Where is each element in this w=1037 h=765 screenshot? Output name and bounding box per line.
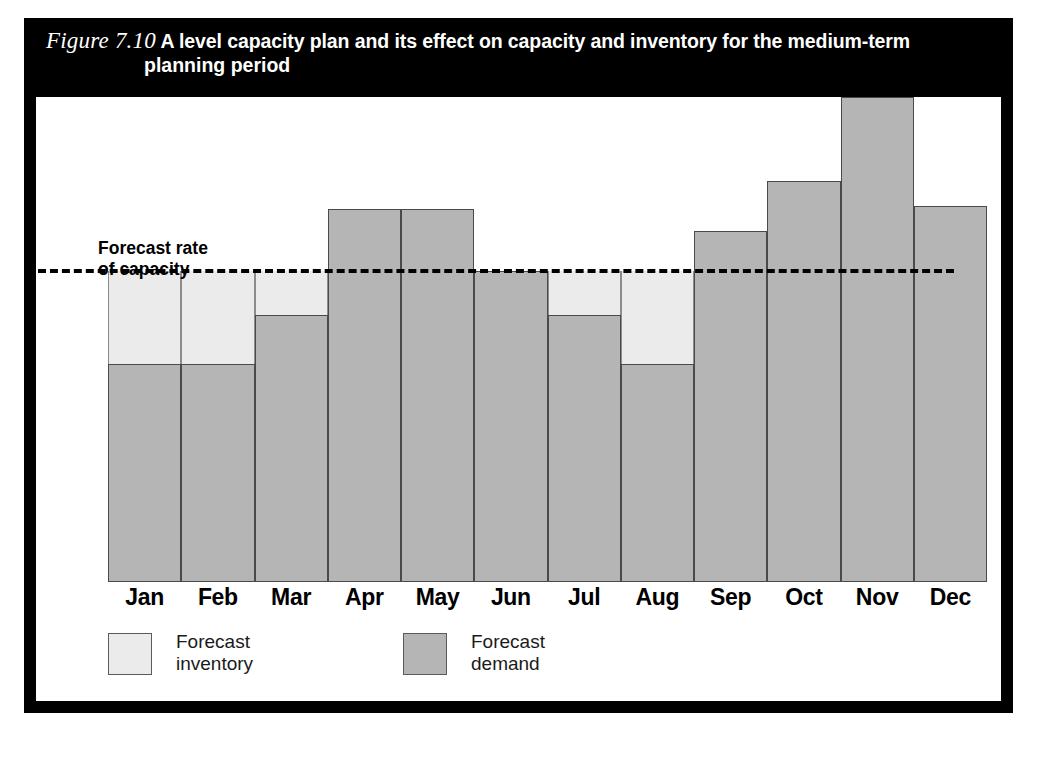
bar-column	[474, 97, 547, 582]
bar-column	[767, 97, 840, 582]
demand-bar-apr	[328, 209, 401, 582]
legend-swatch-dark	[403, 633, 447, 675]
chart-panel: Forecast rate of capacity JanFebMarAprMa…	[36, 97, 1001, 701]
month-label-aug: Aug	[621, 584, 694, 611]
month-label-may: May	[401, 584, 474, 611]
legend-label-line2: inventory	[176, 653, 253, 675]
bar-column	[914, 97, 987, 582]
bar-column	[181, 97, 254, 582]
inventory-band-jan	[108, 271, 181, 364]
demand-bar-dec	[914, 206, 987, 582]
demand-bar-aug	[621, 364, 694, 582]
bar-column	[548, 97, 621, 582]
legend-swatch-light	[108, 633, 152, 675]
legend-label-line2: demand	[471, 653, 545, 675]
chart-legend: ForecastinventoryForecastdemand	[108, 631, 987, 693]
month-label-nov: Nov	[841, 584, 914, 611]
figure-title-bar: Figure 7.10 A level capacity plan and it…	[24, 18, 1013, 89]
demand-bar-feb	[181, 364, 254, 582]
month-label-sep: Sep	[694, 584, 767, 611]
demand-bar-jun	[474, 271, 547, 582]
demand-bar-jan	[108, 364, 181, 582]
demand-bar-oct	[767, 181, 840, 582]
demand-bar-sep	[694, 231, 767, 582]
figure-title-line2-wrap: planning period	[144, 54, 994, 77]
bar-column	[841, 97, 914, 582]
legend-item-forecast-inventory: Forecastinventory	[108, 631, 253, 675]
month-label-jun: Jun	[474, 584, 547, 611]
capacity-line-label: Forecast rate of capacity	[98, 238, 208, 280]
bars-container	[108, 97, 987, 582]
figure-title-line2: planning period	[144, 54, 290, 76]
month-label-jul: Jul	[548, 584, 621, 611]
demand-bar-jul	[548, 315, 621, 582]
bar-column	[328, 97, 401, 582]
x-axis-month-labels: JanFebMarAprMayJunJulAugSepOctNovDec	[108, 584, 987, 618]
bar-column	[108, 97, 181, 582]
month-label-jan: Jan	[108, 584, 181, 611]
inventory-band-jul	[548, 271, 621, 315]
figure-title-first-line: Figure 7.10 A level capacity plan and it…	[46, 28, 994, 54]
figure-title-wrap: Figure 7.10 A level capacity plan and it…	[46, 28, 994, 77]
capacity-label-line2: of capacity	[98, 259, 189, 279]
month-label-dec: Dec	[914, 584, 987, 611]
legend-label-line1: Forecast	[176, 631, 253, 653]
figure-frame: Figure 7.10 A level capacity plan and it…	[24, 18, 1013, 713]
month-label-mar: Mar	[255, 584, 328, 611]
legend-item-forecast-demand: Forecastdemand	[403, 631, 545, 675]
capacity-label-line1: Forecast rate	[98, 238, 208, 258]
legend-label: Forecastdemand	[471, 631, 545, 675]
plot-area: Forecast rate of capacity JanFebMarAprMa…	[36, 97, 1001, 597]
month-label-apr: Apr	[328, 584, 401, 611]
month-label-oct: Oct	[767, 584, 840, 611]
bar-column	[255, 97, 328, 582]
figure-number: Figure 7.10	[46, 28, 156, 53]
demand-bar-mar	[255, 315, 328, 582]
legend-label-line1: Forecast	[471, 631, 545, 653]
demand-bar-may	[401, 209, 474, 582]
inventory-band-feb	[181, 271, 254, 364]
bar-column	[621, 97, 694, 582]
bar-column	[401, 97, 474, 582]
inventory-band-aug	[621, 271, 694, 364]
legend-label: Forecastinventory	[176, 631, 253, 675]
demand-bar-nov	[841, 97, 914, 582]
figure-title-line1: A level capacity plan and its effect on …	[160, 30, 910, 52]
bar-column	[694, 97, 767, 582]
month-label-feb: Feb	[181, 584, 254, 611]
inventory-band-mar	[255, 271, 328, 315]
